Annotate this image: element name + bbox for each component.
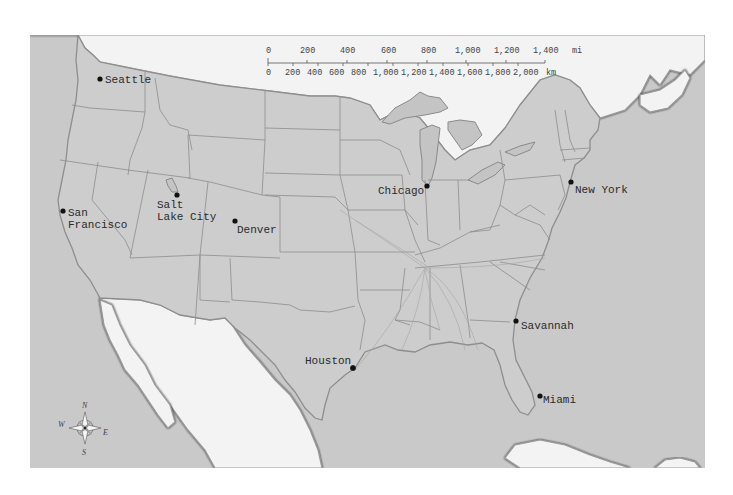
city-seattle[interactable]: Seattle: [97, 74, 151, 86]
city-marker-icon: [97, 76, 102, 81]
city-marker-icon: [424, 183, 429, 188]
svg-text:Miami: Miami: [543, 394, 576, 406]
hispaniola: [655, 458, 700, 468]
svg-text:W: W: [58, 420, 66, 429]
svg-text:1,600: 1,600: [457, 68, 483, 78]
svg-text:Denver: Denver: [237, 224, 277, 236]
city-marker-icon: [174, 192, 179, 197]
svg-text:Francisco: Francisco: [68, 219, 127, 231]
svg-text:New York: New York: [575, 184, 628, 196]
svg-text:N: N: [81, 401, 88, 410]
svg-text:Lake City: Lake City: [157, 211, 217, 223]
svg-text:1,000: 1,000: [455, 46, 481, 56]
svg-text:S: S: [82, 448, 86, 457]
svg-text:Salt: Salt: [157, 199, 183, 211]
svg-text:1,400: 1,400: [533, 46, 559, 56]
svg-text:2,000: 2,000: [513, 68, 539, 78]
map-frame[interactable]: 0 200 400 600 800 1,000 1,200 1,400 mi: [30, 35, 705, 468]
svg-text:200: 200: [285, 68, 300, 78]
city-marker-icon: [537, 393, 542, 398]
svg-text:600: 600: [381, 46, 396, 56]
svg-text:1,000: 1,000: [373, 68, 399, 78]
svg-text:km: km: [546, 68, 556, 78]
compass-rose-icon: N S E W: [58, 401, 108, 457]
svg-text:0: 0: [266, 46, 271, 56]
city-marker-icon: [232, 218, 237, 223]
svg-text:0: 0: [266, 68, 271, 78]
city-new-york[interactable]: New York: [568, 179, 628, 196]
city-marker-icon: [568, 179, 573, 184]
svg-text:800: 800: [421, 46, 436, 56]
svg-text:600: 600: [329, 68, 344, 78]
svg-text:1,800: 1,800: [485, 68, 511, 78]
city-marker-icon: [60, 208, 65, 213]
svg-text:Houston: Houston: [305, 355, 351, 367]
svg-text:Chicago: Chicago: [378, 185, 424, 197]
city-miami[interactable]: Miami: [537, 393, 576, 406]
svg-text:400: 400: [340, 46, 355, 56]
svg-text:Savannah: Savannah: [521, 320, 574, 332]
cuba: [505, 440, 630, 468]
svg-text:Seattle: Seattle: [105, 74, 151, 86]
svg-text:San: San: [68, 207, 88, 219]
us-map[interactable]: 0 200 400 600 800 1,000 1,200 1,400 mi: [30, 35, 705, 468]
svg-text:200: 200: [300, 46, 315, 56]
city-marker-icon: [513, 318, 518, 323]
svg-text:mi: mi: [572, 46, 582, 56]
svg-text:1,400: 1,400: [429, 68, 455, 78]
svg-text:800: 800: [351, 68, 366, 78]
svg-text:E: E: [102, 428, 108, 437]
svg-text:400: 400: [307, 68, 322, 78]
city-chicago[interactable]: Chicago: [378, 183, 430, 197]
svg-text:1,200: 1,200: [401, 68, 427, 78]
svg-text:1,200: 1,200: [494, 46, 520, 56]
city-savannah[interactable]: Savannah: [513, 318, 573, 332]
